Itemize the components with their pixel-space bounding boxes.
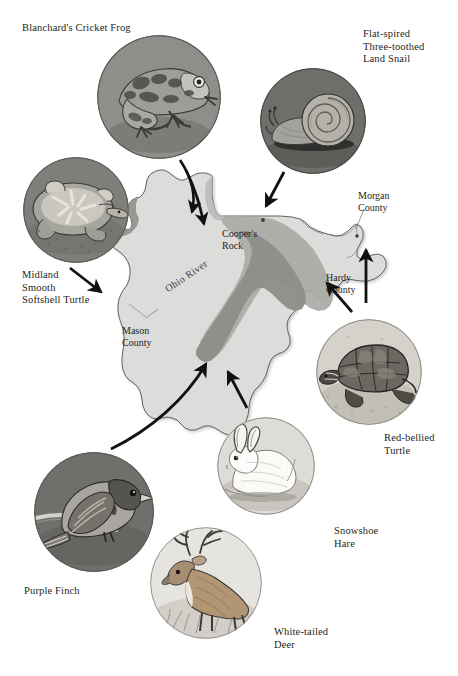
map-label-morgan-county: Morgan County <box>358 190 389 214</box>
hare-illustration <box>217 417 315 515</box>
species-distribution-figure: Ohio River Cooper's Rock Mason County Mo… <box>0 0 458 676</box>
snowshoe-hare-medallion <box>217 417 315 515</box>
red-bellied-turtle-medallion <box>316 319 422 425</box>
snail-illustration <box>260 68 366 174</box>
frog-illustration <box>97 35 221 159</box>
finch-illustration <box>34 452 154 572</box>
red-bellied-turtle-illustration <box>316 319 422 425</box>
blanchards-cricket-frog-medallion <box>97 35 221 159</box>
map-label-hardy-county: Hardy County <box>326 272 355 296</box>
map-label-coopers-rock: Cooper's Rock <box>222 228 257 252</box>
softshell-turtle-illustration <box>23 157 129 263</box>
map-label-mason-county: Mason County <box>122 325 151 349</box>
arrow-softshell-turtle-to-mason-county <box>70 268 101 292</box>
arrow-snail-to-coopers-rock <box>266 172 284 206</box>
deer-illustration <box>150 527 262 639</box>
white-tailed-deer-medallion <box>150 527 262 639</box>
land-snail-medallion <box>260 68 366 174</box>
purple-finch-medallion <box>34 452 154 572</box>
midland-smooth-softshell-turtle-medallion <box>23 157 129 263</box>
